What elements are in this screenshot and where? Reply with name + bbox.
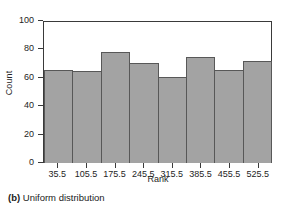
- x-axis-tick-mark: [229, 163, 230, 168]
- bar: [243, 61, 272, 163]
- y-axis-tick-mark: [38, 162, 43, 163]
- x-axis-tick-mark: [143, 163, 144, 168]
- y-axis-tick-label: 40: [0, 100, 34, 110]
- caption-description: Uniform distribution: [23, 192, 105, 203]
- x-axis-tick-mark: [200, 163, 201, 168]
- bar: [101, 52, 130, 163]
- x-axis-tick-label: 525.5: [238, 169, 278, 179]
- y-axis-tick-label: 100: [0, 15, 34, 25]
- y-axis-tick-label: 20: [0, 129, 34, 139]
- x-axis-tick-mark: [57, 163, 58, 168]
- y-axis-tick-mark: [38, 77, 43, 78]
- bar-series: [44, 22, 272, 163]
- x-axis-tick-mark: [115, 163, 116, 168]
- y-axis-tick-label: 80: [0, 43, 34, 53]
- bar: [44, 70, 73, 163]
- bar: [214, 70, 243, 163]
- y-axis-tick-mark: [38, 134, 43, 135]
- bar: [72, 71, 101, 163]
- x-axis-tick-mark: [258, 163, 259, 168]
- caption-label: (b): [8, 192, 20, 203]
- figure-uniform-distribution: Count Rank 020406080100 35.5105.5175.524…: [0, 0, 287, 209]
- bar: [129, 63, 158, 163]
- bar: [158, 77, 187, 163]
- figure-caption: (b) Uniform distribution: [8, 192, 105, 203]
- y-axis-tick-mark: [38, 105, 43, 106]
- histogram-chart: Count Rank 020406080100 35.5105.5175.524…: [0, 0, 287, 186]
- y-axis-tick-label: 60: [0, 72, 34, 82]
- y-axis-tick-mark: [38, 20, 43, 21]
- x-axis-tick-mark: [172, 163, 173, 168]
- x-axis-tick-mark: [86, 163, 87, 168]
- y-axis-tick-mark: [38, 48, 43, 49]
- y-axis-tick-label: 0: [0, 157, 34, 167]
- bar: [186, 57, 215, 163]
